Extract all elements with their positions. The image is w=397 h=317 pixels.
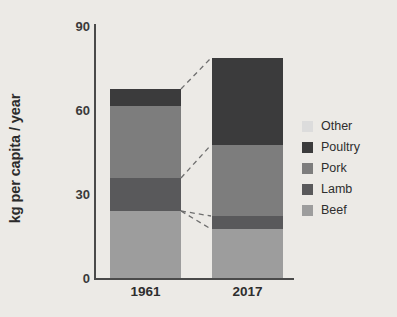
legend-swatch-icon (302, 205, 313, 216)
bar-segment-poultry[interactable] (110, 89, 181, 106)
legend-item-pork[interactable]: Pork (302, 158, 394, 179)
bar-segment-lamb[interactable] (212, 216, 283, 229)
legend-swatch-icon (302, 163, 313, 174)
bar-segment-lamb[interactable] (110, 178, 181, 211)
legend-swatch-icon (302, 121, 313, 132)
x-tick-label-2017: 2017 (212, 284, 283, 299)
bar-segment-beef[interactable] (212, 229, 283, 278)
bar-2017[interactable] (212, 58, 283, 278)
legend: Other Poultry Pork Lamb Beef (302, 116, 394, 221)
legend-item-lamb[interactable]: Lamb (302, 179, 394, 200)
bar-segment-beef[interactable] (110, 211, 181, 278)
bar-1961[interactable] (110, 89, 181, 278)
legend-item-label: Pork (321, 162, 347, 175)
bar-segment-pork[interactable] (212, 145, 283, 216)
legend-item-label: Lamb (321, 183, 352, 196)
stacked-bar-chart: kg per capita / year 90 60 30 0 (0, 0, 397, 317)
legend-item-label: Other (321, 120, 352, 133)
legend-item-label: Poultry (321, 141, 360, 154)
legend-item-beef[interactable]: Beef (302, 200, 394, 221)
legend-swatch-icon (302, 142, 313, 153)
bar-segment-pork[interactable] (110, 106, 181, 178)
legend-item-poultry[interactable]: Poultry (302, 137, 394, 158)
x-tick-label-1961: 1961 (110, 284, 181, 299)
legend-item-other[interactable]: Other (302, 116, 394, 137)
bar-segment-poultry[interactable] (212, 58, 283, 145)
legend-item-label: Beef (321, 204, 347, 217)
legend-swatch-icon (302, 184, 313, 195)
